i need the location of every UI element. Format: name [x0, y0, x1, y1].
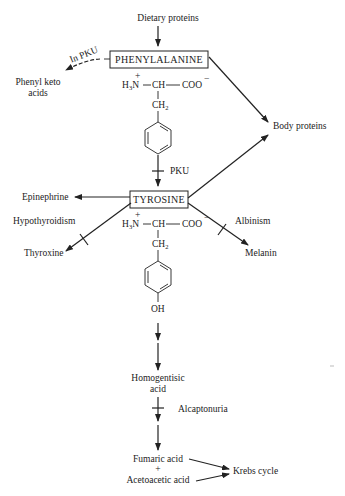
tyr-double-bond-1 [160, 265, 168, 270]
tyr-alpha-ch: CH [152, 219, 165, 229]
tyrosine-label: TYROSINE [133, 194, 185, 205]
node-homogentisic-acid-line2: acid [150, 384, 166, 394]
node-acetoacetic-acid: Acetoacetic acid [126, 475, 189, 485]
edge-label-in-pku: In PKU [68, 44, 99, 64]
plus-sign: + [155, 464, 160, 474]
tyr-plus-charge: + [135, 210, 140, 220]
arrow-phenylalanine-to-body-proteins [209, 57, 268, 122]
tyr-carboxyl: COO [182, 219, 202, 229]
node-fumaric-acid: Fumaric acid [133, 454, 183, 464]
phe-plus-charge: + [135, 71, 140, 81]
edge-label-albinism: Albinism [235, 216, 271, 226]
node-krebs-cycle: Krebs cycle [233, 466, 278, 476]
tyr-minus-charge: − [204, 213, 209, 223]
phenylalanine-label: PHENYLALANINE [115, 54, 203, 65]
edge-label-pku: PKU [170, 166, 189, 176]
node-tyrosine: TYROSINE [130, 191, 188, 208]
block-bar-albinism [218, 224, 226, 235]
phe-carboxyl: COO [182, 80, 202, 90]
pathway-diagram: Dietary proteins PHENYLALANINE In PKU Ph… [0, 0, 345, 496]
phe-alpha-ch: CH [152, 80, 165, 90]
node-body-proteins: Body proteins [273, 121, 327, 131]
phe-double-bond-1 [160, 126, 168, 131]
node-melanin: Melanin [245, 248, 277, 258]
arrow-tyrosine-to-body-proteins [188, 135, 268, 198]
node-phenylalanine: PHENYLALANINE [110, 51, 208, 68]
phe-ch2: CH2 [152, 100, 168, 111]
arrow-acetoacetic-to-krebs [196, 474, 229, 481]
phe-amine: H3N [122, 80, 139, 91]
edge-label-hypothyroidism: Hypothyroidism [13, 216, 76, 226]
tyr-hydroxyl: OH [151, 304, 165, 314]
tyr-benzene-ring [145, 261, 171, 293]
arrow-fumaric-to-krebs [189, 459, 229, 469]
edge-label-alcaptonuria: Alcaptonuria [178, 404, 228, 414]
node-epinephrine: Epinephrine [22, 192, 68, 202]
phe-minus-charge: − [204, 74, 209, 84]
tyr-amine: H3N [122, 219, 139, 230]
phe-double-bond-2 [160, 145, 168, 150]
phe-benzene-ring [145, 122, 171, 154]
tyrosine-structure: H3N + CH COO − CH2 OH [122, 210, 209, 314]
node-thyroxine: Thyroxine [24, 248, 64, 258]
tyr-double-bond-2 [160, 284, 168, 289]
node-phenyl-keto-acids-line2: acids [28, 88, 48, 98]
tyr-ch2: CH2 [152, 239, 168, 250]
node-phenyl-keto-acids-line1: Phenyl keto [15, 77, 60, 87]
node-homogentisic-acid-line1: Homogentisic [131, 373, 184, 383]
phenylalanine-structure: H3N + CH COO − CH2 [122, 71, 209, 154]
node-dietary-proteins: Dietary proteins [137, 13, 199, 23]
